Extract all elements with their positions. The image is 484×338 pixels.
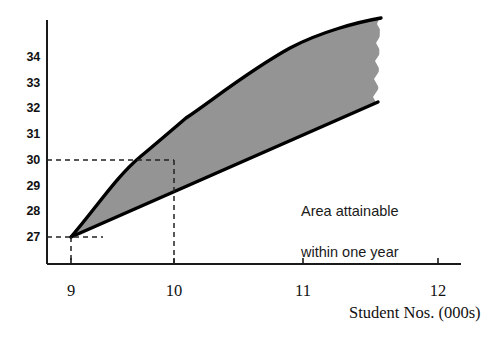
y-tick-label-33: 33 [14,76,40,90]
x-tick-label-10: 10 [154,281,194,301]
y-tick-label-34: 34 [14,50,40,64]
annotation-line-2: within one year [301,242,399,263]
x-axis-title: Student Nos. (000s) [349,303,481,323]
annotation-line-1: Area attainable [301,201,399,222]
y-tick-label-30: 30 [14,153,40,167]
y-tick-label-32: 32 [14,101,40,115]
y-tick-label-29: 29 [14,179,40,193]
x-tick-label-9: 9 [51,281,91,301]
y-tick-label-31: 31 [14,127,40,141]
x-tick-label-12: 12 [418,281,458,301]
x-tick-label-11: 11 [283,281,323,301]
y-tick-label-27: 27 [14,230,40,244]
y-tick-label-28: 28 [14,204,40,218]
area-attainable-annotation: Area attainable within one year [301,180,399,283]
chart-container: 34 33 32 31 30 29 28 27 9 10 11 12 Stude… [0,0,484,338]
